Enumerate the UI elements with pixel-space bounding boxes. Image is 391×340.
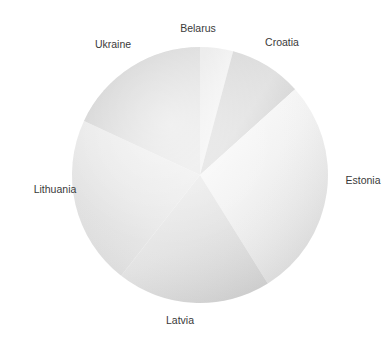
pie-label-lithuania: Lithuania (34, 183, 77, 195)
pie-chart-figure: Belarus Croatia Estonia Latvia Lithuania… (0, 0, 391, 340)
pie-chart-svg (0, 0, 391, 340)
pie-slices-group (72, 47, 328, 303)
pie-label-estonia: Estonia (345, 174, 380, 186)
pie-label-latvia: Latvia (166, 314, 194, 326)
pie-label-ukraine: Ukraine (95, 38, 131, 50)
pie-label-croatia: Croatia (265, 36, 299, 48)
pie-label-belarus: Belarus (180, 22, 216, 34)
